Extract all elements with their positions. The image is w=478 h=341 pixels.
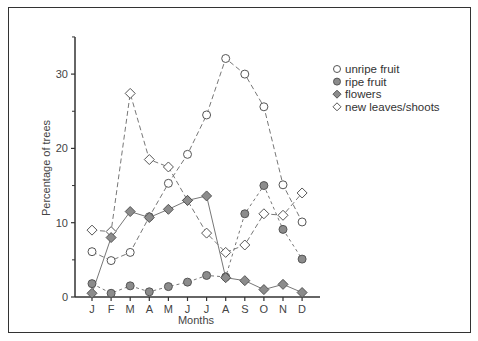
data-point-filled-diamond-icon bbox=[278, 279, 288, 289]
data-point-open-diamond-icon bbox=[125, 88, 135, 98]
data-point-filled-diamond-icon bbox=[202, 191, 212, 201]
data-point-filled-diamond-icon bbox=[183, 195, 193, 205]
data-point-filled-diamond-icon bbox=[259, 285, 269, 295]
legend-label: new leaves/shoots bbox=[345, 101, 440, 113]
data-point-filled-diamond-icon bbox=[240, 276, 250, 286]
x-axis-label: Months bbox=[178, 314, 215, 326]
series-markers-flowers bbox=[87, 191, 307, 298]
y-tick-label: 0 bbox=[62, 291, 68, 303]
legend-label: flowers bbox=[345, 88, 382, 100]
data-point-open-circle-icon bbox=[164, 179, 172, 187]
line-chart: 0102030JFMAMJJASOND unripe fruitripe fru… bbox=[0, 0, 478, 341]
data-point-open-diamond-icon bbox=[144, 155, 154, 165]
data-point-open-circle-icon bbox=[88, 248, 96, 256]
x-tick-label: J bbox=[89, 303, 95, 315]
y-axis-label: Percentage of trees bbox=[40, 120, 52, 217]
y-tick-label: 30 bbox=[56, 68, 68, 80]
data-point-filled-circle-icon bbox=[107, 289, 115, 297]
data-point-filled-circle-icon bbox=[203, 271, 211, 279]
data-point-filled-diamond-icon bbox=[163, 204, 173, 214]
x-tick-label: N bbox=[279, 303, 287, 315]
data-point-filled-circle-icon bbox=[260, 182, 268, 190]
legend-item: new leaves/shoots bbox=[333, 101, 440, 113]
x-tick-label: A bbox=[146, 303, 154, 315]
data-point-open-circle-icon bbox=[241, 70, 249, 78]
legend-filled-circle-icon bbox=[334, 78, 341, 85]
legend-item: flowers bbox=[333, 88, 382, 100]
data-point-filled-diamond-icon bbox=[125, 207, 135, 217]
data-point-filled-circle-icon bbox=[279, 225, 287, 233]
data-point-open-diamond-icon bbox=[240, 240, 250, 250]
data-point-filled-circle-icon bbox=[241, 210, 249, 218]
data-point-filled-circle-icon bbox=[164, 283, 172, 291]
legend-filled-diamond-icon bbox=[333, 90, 341, 98]
data-point-filled-diamond-icon bbox=[297, 288, 307, 298]
x-tick-label: M bbox=[126, 303, 135, 315]
data-point-filled-circle-icon bbox=[88, 280, 96, 288]
series-line-ripe-fruit bbox=[92, 186, 302, 294]
x-tick-label: O bbox=[260, 303, 269, 315]
data-point-filled-circle-icon bbox=[145, 288, 153, 296]
data-point-open-circle-icon bbox=[203, 111, 211, 119]
x-tick-label: S bbox=[241, 303, 248, 315]
x-tick-label: D bbox=[298, 303, 306, 315]
data-series bbox=[87, 54, 307, 298]
x-tick-label: A bbox=[222, 303, 230, 315]
legend-label: unripe fruit bbox=[345, 63, 400, 75]
data-point-filled-circle-icon bbox=[126, 282, 134, 290]
series-line-unripe-fruit bbox=[92, 58, 302, 260]
data-point-open-circle-icon bbox=[107, 257, 115, 265]
data-point-open-circle-icon bbox=[222, 54, 230, 62]
data-point-filled-circle-icon bbox=[298, 255, 306, 263]
y-tick-label: 10 bbox=[56, 217, 68, 229]
data-point-filled-diamond-icon bbox=[106, 233, 116, 243]
legend-open-circle-icon bbox=[334, 66, 341, 73]
data-point-open-circle-icon bbox=[298, 218, 306, 226]
legend: unripe fruitripe fruitflowersnew leaves/… bbox=[333, 63, 440, 113]
data-point-open-circle-icon bbox=[279, 181, 287, 189]
x-tick-label: M bbox=[164, 303, 173, 315]
legend-item: ripe fruit bbox=[334, 76, 388, 88]
data-point-open-circle-icon bbox=[260, 103, 268, 111]
series-markers-ripe-fruit bbox=[88, 182, 306, 298]
series-line-flowers bbox=[92, 196, 302, 293]
data-point-open-circle-icon bbox=[184, 150, 192, 158]
y-tick-label: 20 bbox=[56, 142, 68, 154]
data-point-open-diamond-icon bbox=[87, 225, 97, 235]
series-line-new-leaves-shoots bbox=[92, 93, 302, 252]
data-point-open-diamond-icon bbox=[259, 209, 269, 219]
legend-open-diamond-icon bbox=[333, 103, 341, 111]
series-markers-new-leaves-shoots bbox=[87, 88, 307, 257]
legend-item: unripe fruit bbox=[334, 63, 401, 75]
legend-label: ripe fruit bbox=[345, 76, 387, 88]
x-tick-label: F bbox=[108, 303, 115, 315]
data-point-open-diamond-icon bbox=[163, 162, 173, 172]
data-point-filled-circle-icon bbox=[184, 278, 192, 286]
data-point-open-circle-icon bbox=[126, 248, 134, 256]
